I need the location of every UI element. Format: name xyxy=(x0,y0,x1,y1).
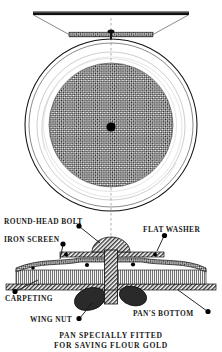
screen-rivet-3 xyxy=(31,266,35,270)
strap-rivet-1 xyxy=(64,253,68,257)
leader-dot-iron-screen xyxy=(60,241,65,246)
caption-line-1: PAN SPECIALLY FITTED xyxy=(59,331,163,340)
label-carpeting: CARPETING xyxy=(5,294,53,303)
leader-dot-carpeting xyxy=(12,289,17,294)
caption-line-2: FOR SAVING FLOUR GOLD xyxy=(54,341,168,350)
strap-rivet-2 xyxy=(153,253,157,257)
leader-dot-pans-bottom xyxy=(205,309,210,314)
leader-dot-round-head-bolt xyxy=(76,223,81,228)
wing-nut-body xyxy=(105,290,118,304)
label-flat-washer: FLAT WASHER xyxy=(143,225,200,234)
label-wing-nut: WING NUT xyxy=(30,315,72,324)
leader-dot-wing-nut xyxy=(76,316,81,321)
bolt-head-plan-notch xyxy=(111,123,115,126)
figure-caption: PAN SPECIALLY FITTED FOR SAVING FLOUR GO… xyxy=(54,331,168,350)
figure-pan-for-saving-flour-gold: ROUND-HEAD BOLT FLAT WASHER IRON SCREEN … xyxy=(0,0,222,352)
label-pans-bottom: PAN'S BOTTOM xyxy=(133,309,194,318)
label-round-head-bolt: ROUND-HEAD BOLT xyxy=(4,217,83,226)
screen-rivet-1 xyxy=(85,263,89,267)
illustration-svg: ROUND-HEAD BOLT FLAT WASHER IRON SCREEN … xyxy=(0,0,222,352)
leader-dot-flat-washer xyxy=(162,233,167,238)
pan-rim-top xyxy=(33,13,189,16)
screen-rivet-2 xyxy=(131,262,135,266)
label-iron-screen: IRON SCREEN xyxy=(4,235,60,244)
